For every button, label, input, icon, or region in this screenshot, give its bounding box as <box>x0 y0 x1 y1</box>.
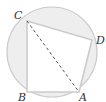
label-c: C <box>14 9 23 22</box>
label-d: D <box>95 34 105 47</box>
label-b: B <box>17 91 26 102</box>
label-a: A <box>78 91 87 102</box>
geometry-diagram: C D B A <box>0 0 106 102</box>
